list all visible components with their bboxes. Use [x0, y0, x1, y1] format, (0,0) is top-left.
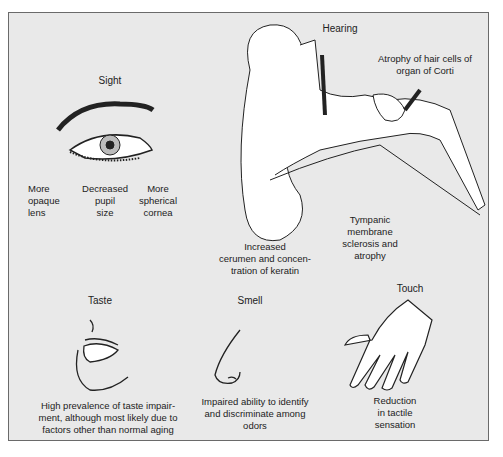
hand-illustration [345, 300, 432, 390]
nose-illustration [215, 330, 240, 383]
hearing-change-corti: Atrophy of hair cells of organ of Corti [365, 53, 485, 77]
smell-change: Impaired ability to identify and discrim… [190, 396, 320, 432]
sense-title-touch: Touch [380, 283, 440, 295]
sense-title-sight: Sight [85, 75, 135, 87]
eye-illustration [58, 104, 153, 161]
sight-change-cornea: More spherical cornea [133, 183, 183, 219]
taste-change: High prevalence of taste impair- ment, a… [28, 400, 188, 436]
sense-title-smell: Smell [225, 295, 275, 307]
sight-change-pupil: Decreased pupil size [75, 183, 135, 219]
touch-change: Reduction in tactile sensation [360, 395, 430, 431]
sight-change-lens: More opaque lens [28, 183, 78, 219]
sense-title-taste: Taste [75, 295, 125, 307]
hearing-change-tympanic: Tympanic membrane sclerosis and atrophy [335, 214, 405, 262]
sense-title-hearing: Hearing [310, 23, 370, 35]
hearing-change-cerumen: Increased cerumen and concen- tration of… [210, 241, 320, 277]
mouth-illustration [77, 320, 129, 390]
